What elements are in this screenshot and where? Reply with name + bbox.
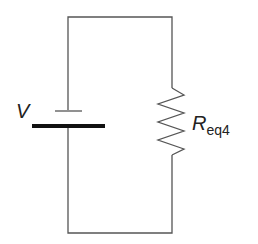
top-wire: [68, 17, 172, 110]
resistor-label-main: R: [192, 112, 206, 134]
battery-label: V: [16, 100, 31, 122]
resistor-label-subscript: eq4: [206, 122, 230, 138]
resistor-icon: [158, 88, 184, 155]
right-wire: [68, 127, 172, 233]
circuit-diagram: V Req4: [0, 0, 258, 244]
resistor-label: Req4: [192, 112, 230, 138]
